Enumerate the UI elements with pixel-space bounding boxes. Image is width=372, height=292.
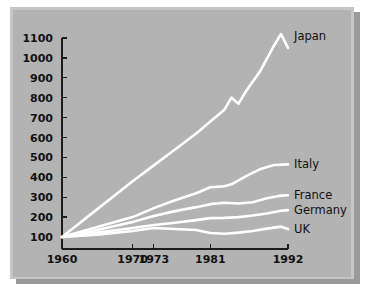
x-axis-tick-labels: 19601970197319811992 <box>47 253 304 266</box>
series-label-germany: Germany <box>294 203 347 217</box>
series-line-germany <box>62 210 288 237</box>
y-tick-label-900: 900 <box>30 72 53 85</box>
y-tick-label-1100: 1100 <box>22 32 53 45</box>
y-axis-tick-labels: 10020030040050060070080090010001100 <box>22 32 53 244</box>
line-chart: 10020030040050060070080090010001100 1960… <box>0 0 372 292</box>
y-tick-label-600: 600 <box>30 132 53 145</box>
x-axis-ticks <box>62 244 288 249</box>
y-tick-label-400: 400 <box>30 171 53 184</box>
y-tick-label-300: 300 <box>30 191 53 204</box>
x-tick-label-1960: 1960 <box>47 253 78 266</box>
y-tick-label-100: 100 <box>30 231 53 244</box>
y-tick-label-800: 800 <box>30 92 53 105</box>
figure-root: 10020030040050060070080090010001100 1960… <box>0 0 372 292</box>
y-tick-label-500: 500 <box>30 151 53 164</box>
y-tick-label-200: 200 <box>30 211 53 224</box>
series-label-japan: Japan <box>293 29 326 43</box>
y-tick-label-700: 700 <box>30 112 53 125</box>
chart-axes <box>62 38 288 249</box>
series-line-japan <box>62 34 288 237</box>
series-label-france: France <box>294 188 332 202</box>
series-label-italy: Italy <box>294 157 319 171</box>
data-series-lines <box>62 34 288 237</box>
x-tick-label-1973: 1973 <box>139 253 170 266</box>
series-label-uk: UK <box>294 222 310 236</box>
y-axis-ticks <box>62 38 67 237</box>
x-tick-label-1992: 1992 <box>273 253 304 266</box>
x-tick-label-1981: 1981 <box>195 253 226 266</box>
series-inline-labels: JapanItalyFranceGermanyUK <box>293 29 347 236</box>
y-tick-label-1000: 1000 <box>22 52 53 65</box>
axis-lines <box>62 38 288 249</box>
